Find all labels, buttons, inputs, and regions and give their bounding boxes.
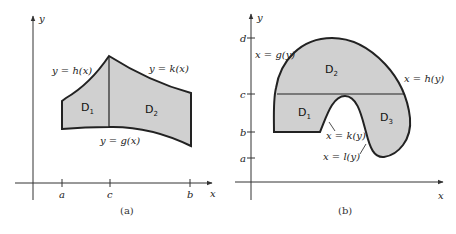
curve-label-g: y = g(x) — [99, 135, 140, 146]
y-axis-label-a: y — [38, 13, 45, 24]
diagram-canvas: y x a c b D1 D2 y = h(x) y = k(x) y = g(… — [0, 0, 456, 234]
tick-label-a: a — [59, 189, 65, 200]
curve-label-h: y = h(x) — [51, 65, 92, 76]
caption-b: (b) — [338, 205, 352, 216]
figure-b: y x d c b a D2 D1 D3 x = g(y) x = h(y) x… — [235, 12, 444, 216]
tick-label-c-b: c — [240, 89, 246, 100]
tick-label-a-b: a — [240, 153, 246, 164]
curve-label-k: y = k(x) — [148, 63, 189, 74]
tick-label-b-b: b — [240, 127, 246, 138]
y-axis-label-b: y — [256, 12, 263, 23]
figure-a: y x a c b D1 D2 y = h(x) y = k(x) y = g(… — [15, 13, 216, 216]
x-axis-label-b: x — [438, 190, 444, 201]
tick-label-c: c — [107, 189, 113, 200]
leader-l-y — [360, 144, 366, 154]
curve-label-g-y: x = g(y) — [255, 49, 295, 60]
caption-a: (a) — [120, 205, 134, 216]
curve-label-h-y: x = h(y) — [404, 73, 444, 84]
tick-label-d: d — [240, 33, 246, 44]
x-axis-label-a: x — [210, 188, 216, 199]
curve-label-k-y: x = k(y) — [326, 130, 366, 141]
curve-label-l-y: x = l(y) — [323, 151, 360, 162]
tick-label-b: b — [187, 189, 193, 200]
